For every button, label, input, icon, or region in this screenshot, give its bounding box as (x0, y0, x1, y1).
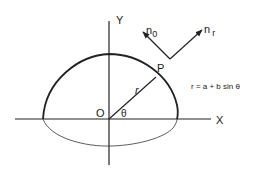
nr-subscript: r (212, 28, 215, 38)
x-axis-label: X (216, 114, 224, 126)
radius-label: r (135, 84, 140, 96)
angle-label: θ (121, 108, 127, 119)
y-axis-label: Y (116, 14, 124, 26)
point-p-label: P (157, 62, 164, 74)
origin-label: O (96, 107, 105, 119)
n0-subscript: 0 (152, 29, 157, 39)
radius-line (109, 77, 156, 119)
nr-base: n (204, 23, 210, 35)
nr-label: nr (204, 23, 215, 38)
equation-label: r = a + b sin θ (191, 82, 240, 91)
nr-vector (170, 30, 202, 59)
polar-diagram: Y X O θ r P n0 nr r = a + b sin θ (0, 0, 259, 170)
lower-curve (43, 119, 177, 146)
